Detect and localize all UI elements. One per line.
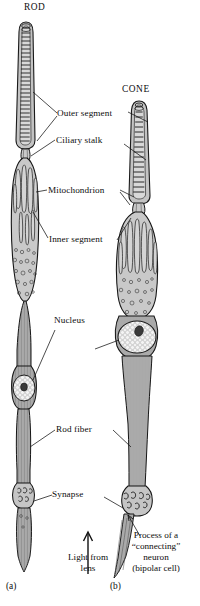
rod-nucleolus <box>21 383 28 391</box>
cone-outer-segment <box>129 101 150 204</box>
cone-nucleus <box>118 321 156 353</box>
bipolar-line4: (bipolar cell) <box>113 563 199 574</box>
label-nucleus: Nucleus <box>54 315 85 326</box>
figure-rod-and-cone: ROD CONE Outer segment Ciliary stalk Mit… <box>0 0 200 606</box>
panel-label-b: (b) <box>110 581 121 591</box>
photoreceptor-diagram <box>0 0 200 606</box>
leader-synapse-cone <box>104 497 123 508</box>
bipolar-line2: “connecting” <box>113 541 199 552</box>
leader-synapse-rod <box>34 495 52 501</box>
cone-nucleus-region <box>115 316 157 360</box>
label-inner-segment: Inner segment <box>49 234 103 245</box>
cone-fiber <box>122 356 152 488</box>
bipolar-line3: neuron <box>113 552 199 563</box>
label-ciliary-stalk: Ciliary stalk <box>56 135 102 146</box>
label-mitochondrion: Mitochondrion <box>48 185 104 196</box>
panel-label-a: (a) <box>6 581 16 591</box>
rod-inner-fiber <box>16 409 30 484</box>
rod-outer-fiber <box>17 301 31 368</box>
rod-terminal-tail <box>17 508 32 572</box>
label-synapse: Synapse <box>52 489 83 500</box>
rod-title: ROD <box>24 2 45 12</box>
cone-synapse <box>122 486 153 516</box>
label-outer-segment: Outer segment <box>57 108 112 119</box>
leader-outer-segment-rod2 <box>37 116 57 141</box>
cone-title: CONE <box>122 84 150 94</box>
rod-nucleus-region <box>12 366 37 410</box>
rod-synapse <box>13 483 35 509</box>
label-rod-fiber: Rod fiber <box>56 424 92 435</box>
leader-nucleus-rod <box>33 330 55 380</box>
leader-nucleus-cone <box>95 340 119 349</box>
leader-outer-segment-rod <box>33 92 57 113</box>
cone-inner-segment <box>117 212 158 320</box>
leader-rod-fiber-left <box>30 430 55 447</box>
rod-outer-segment <box>16 22 35 149</box>
rod-inner-segment <box>11 158 38 302</box>
bipolar-line1: Process of a <box>113 530 199 541</box>
rod-cell <box>11 22 38 572</box>
